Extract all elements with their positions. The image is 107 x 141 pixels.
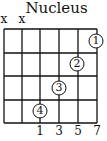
finger-1-marker: 1: [89, 34, 104, 49]
interval-label-3: 3: [55, 125, 63, 138]
finger-4-marker: 4: [33, 104, 48, 119]
fretboard-grid: [0, 0, 107, 141]
interval-label-7: 7: [93, 125, 101, 138]
interval-label-1: 1: [36, 125, 44, 138]
finger-3-marker: 3: [52, 81, 67, 96]
interval-label-5: 5: [74, 125, 82, 138]
finger-2-marker: 2: [70, 57, 85, 72]
